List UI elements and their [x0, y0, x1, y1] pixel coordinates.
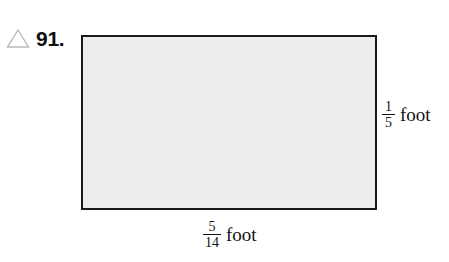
height-dimension-label: 1 5 foot — [382, 99, 431, 130]
problem-number: 91. — [36, 28, 64, 49]
figure-root: 91. 1 5 foot 5 14 foot — [0, 0, 449, 262]
height-unit-label: foot — [400, 104, 431, 126]
problem-marker: 91. — [6, 28, 64, 49]
triangle-outline-icon — [6, 28, 30, 49]
width-dimension-label: 5 14 foot — [203, 219, 257, 250]
width-unit-label: foot — [226, 224, 257, 246]
rectangle-figure — [81, 35, 377, 210]
height-fraction-numerator: 1 — [383, 99, 394, 114]
width-fraction-numerator: 5 — [207, 219, 218, 234]
width-fraction-denominator: 14 — [203, 235, 221, 250]
width-fraction: 5 14 — [203, 219, 221, 250]
height-fraction-denominator: 5 — [383, 115, 394, 130]
height-fraction: 1 5 — [382, 99, 395, 130]
